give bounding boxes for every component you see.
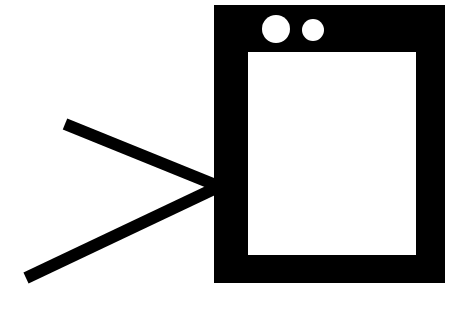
device-diagram: [0, 0, 469, 309]
lower-converging-line: [26, 187, 218, 278]
indicator-dot-small-icon: [302, 19, 324, 41]
indicator-dot-large-icon: [262, 15, 290, 43]
upper-converging-line: [65, 124, 218, 186]
device-screen: [248, 52, 416, 255]
